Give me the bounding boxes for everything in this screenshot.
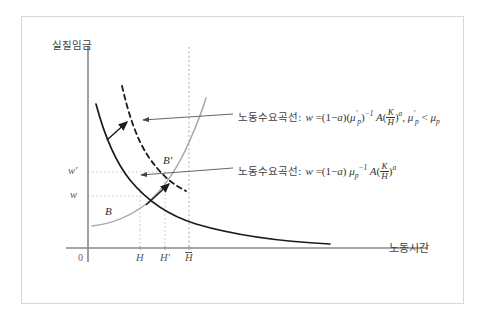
equilibrium-move-arrow [146,184,169,205]
annotation-original-demand-curve-label: 노동수요곡선 [238,165,298,177]
origin-label: 0 [78,253,83,263]
demand-shift-arrow-upper [107,122,127,140]
eq1-frac-den: H [386,118,395,127]
y-tick-label-wprime: w' [68,166,77,177]
eq2-mu-exp: −1 [358,163,367,172]
annotation-original-demand: 노동수요곡선: w =(1−a) μp−1 A(KH)a [238,161,396,182]
eq2-exp: a [392,163,396,172]
x-tick-label-Hbar-text: H [185,253,193,264]
eq2-A: A [370,165,377,177]
eq2-fraction: KH [380,162,389,182]
annotation-shifted-demand-separator: : [298,111,302,123]
leader-line-shifted-demand [143,114,233,120]
cond1-mu-sub: p [415,117,419,126]
x-tick-label-H: H [136,253,144,264]
y-tick-label-w: w [70,190,77,201]
labor-demand-shifted-curve [122,86,186,191]
eq2-lhs: w [306,165,313,177]
annotation-original-demand-separator: : [298,165,302,177]
figure-root: 실질임금 노동시간 0 H H' H w' w B B' 노동수요곡선: w =… [0,0,486,325]
eq2-frac-den: H [380,172,389,181]
cond1-mu2-sub: p [436,117,440,126]
leader-line-original-demand [141,168,233,175]
y-axis-title: 실질임금 [52,40,92,51]
eq1-mu-exp: −1 [365,109,374,118]
x-tick-label-Hprime: H' [160,253,170,264]
x-axis-title: 노동시간 [389,243,429,254]
eq1-term1: (1 [322,111,331,123]
eq1-exp: a [399,109,403,118]
eq1-fraction: KH [386,108,395,128]
annotation-shifted-demand-equation: w =(1−a)(μ'p)−1 A(KH)a, μ'p < μp [306,111,440,123]
eq2-term1: (1 [322,165,331,177]
point-label-B: B [105,206,112,217]
eq1-A: A [376,111,383,123]
point-label-Bprime: B' [163,155,172,166]
eq2-term1-close: ) [343,165,347,177]
eq2-mu-sub: p [355,171,359,180]
x-tick-label-Hbar: H [185,253,193,264]
annotation-shifted-demand: 노동수요곡선: w =(1−a)(μ'p)−1 A(KH)a, μ'p < μp [238,107,440,128]
annotation-shifted-demand-curve-label: 노동수요곡선 [238,111,298,123]
annotation-original-demand-equation: w =(1−a) μp−1 A(KH)a [306,165,397,177]
eq1-lhs: w [306,111,313,123]
cond1-rel: < [422,111,428,123]
